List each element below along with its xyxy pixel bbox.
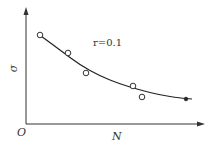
data-point xyxy=(139,94,145,100)
chart xyxy=(0,0,213,152)
y-axis-label: σ xyxy=(7,65,20,73)
end-point xyxy=(184,97,188,101)
x-axis-arrow xyxy=(197,122,205,127)
annotation-r: r=0.1 xyxy=(93,37,122,48)
data-point xyxy=(37,32,43,38)
origin-label: O xyxy=(17,126,26,139)
data-point xyxy=(83,70,89,76)
data-point xyxy=(130,83,136,89)
y-axis-arrow xyxy=(24,7,29,15)
x-axis-label: N xyxy=(112,130,122,143)
data-point xyxy=(65,50,71,56)
